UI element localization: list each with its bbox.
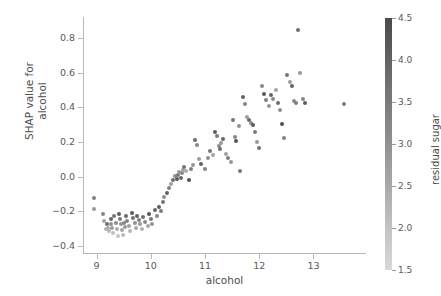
scatter-point <box>147 212 151 216</box>
scatter-point <box>116 234 120 238</box>
scatter-point <box>221 137 225 141</box>
colorbar-tick-mark <box>392 102 396 103</box>
colorbar-tick-mark <box>392 18 396 19</box>
scatter-point <box>211 153 215 157</box>
scatter-point <box>257 146 261 150</box>
scatter-point <box>218 147 222 151</box>
x-tick-label: 10 <box>136 260 166 271</box>
scatter-point <box>112 214 116 218</box>
scatter-point <box>298 71 302 75</box>
scatter-point <box>117 212 121 216</box>
scatter-point <box>111 231 115 235</box>
scatter-point <box>140 227 144 231</box>
scatter-point <box>159 209 163 213</box>
y-tick-label: 0.4 <box>60 101 75 112</box>
scatter-point <box>187 178 191 182</box>
scatter-point <box>219 141 223 145</box>
scatter-point <box>165 191 169 195</box>
y-tick-label: −0.2 <box>52 205 75 216</box>
colorbar-tick-mark <box>392 60 396 61</box>
scatter-point <box>280 122 284 126</box>
x-tick-mark <box>151 254 152 259</box>
scatter-point <box>342 102 346 106</box>
scatter-point <box>150 222 154 226</box>
x-tick-mark <box>205 254 206 259</box>
x-tick-label: 12 <box>244 260 274 271</box>
scatter-point <box>285 73 289 77</box>
colorbar-gradient <box>385 18 392 270</box>
scatter-point <box>215 134 219 138</box>
colorbar-tick-mark <box>392 186 396 187</box>
scatter-point <box>92 207 96 211</box>
y-tick-label: 0.2 <box>60 136 75 147</box>
y-tick-label: 0.6 <box>60 67 75 78</box>
scatter-point <box>303 101 307 105</box>
colorbar-tick-mark <box>392 144 396 145</box>
plot-area <box>83 17 365 253</box>
scatter-point <box>128 229 132 233</box>
scatter-point <box>155 214 159 218</box>
scatter-points-layer <box>83 17 365 253</box>
scatter-point <box>101 212 105 216</box>
scatter-point <box>255 140 259 144</box>
colorbar-label: residual sugar <box>430 85 441 215</box>
x-tick-label: 9 <box>82 260 112 271</box>
scatter-point <box>243 102 247 106</box>
scatter-point <box>251 123 255 127</box>
y-tick-label: 0.8 <box>60 32 75 43</box>
scatter-point <box>271 97 275 101</box>
scatter-point <box>133 221 137 225</box>
scatter-point <box>290 84 294 88</box>
x-tick-label: 11 <box>190 260 220 271</box>
scatter-point <box>278 108 282 112</box>
scatter-point <box>229 160 233 164</box>
scatter-point <box>189 167 193 171</box>
scatter-point <box>115 227 119 231</box>
scatter-point <box>130 211 134 215</box>
scatter-point <box>231 118 235 122</box>
y-axis-label-line-2: alcohol <box>36 41 49 161</box>
scatter-point <box>237 124 241 128</box>
scatter-point <box>191 163 195 167</box>
scatter-point <box>276 101 280 105</box>
colorbar <box>385 18 392 270</box>
scatter-point <box>121 233 125 237</box>
y-axis-label: SHAP value for alcohol <box>23 41 49 161</box>
scatter-point <box>262 92 266 96</box>
scatter-point <box>267 104 271 108</box>
scatter-point <box>260 84 264 88</box>
colorbar-tick-mark <box>392 270 396 271</box>
colorbar-tick-label: 3.5 <box>398 97 412 107</box>
scatter-point <box>206 156 210 160</box>
scatter-point <box>184 169 188 173</box>
colorbar-tick-label: 1.5 <box>398 265 412 275</box>
scatter-point <box>234 139 238 143</box>
scatter-point <box>124 214 128 218</box>
x-axis-label: alcohol <box>83 274 366 286</box>
colorbar-tick-label: 2.0 <box>398 223 412 233</box>
scatter-point <box>125 219 129 223</box>
colorbar-tick-label: 4.5 <box>398 13 412 23</box>
scatter-point <box>161 200 165 204</box>
scatter-point <box>127 224 131 228</box>
scatter-point <box>274 88 278 92</box>
y-tick-label: 0.0 <box>60 171 75 182</box>
scatter-point <box>146 224 150 228</box>
scatter-point <box>294 101 298 105</box>
x-tick-mark <box>259 254 260 259</box>
scatter-point <box>199 162 203 166</box>
scatter-point <box>195 143 199 147</box>
scatter-point <box>162 195 166 199</box>
scatter-point <box>296 28 300 32</box>
colorbar-tick-label: 4.0 <box>398 55 412 65</box>
colorbar-tick-mark <box>392 228 396 229</box>
colorbar-tick-label: 2.5 <box>398 181 412 191</box>
scatter-point <box>92 196 96 200</box>
scatter-point <box>241 95 245 99</box>
x-axis-spine <box>83 253 366 254</box>
scatter-point <box>282 136 286 140</box>
scatter-point <box>253 130 257 134</box>
scatter-point <box>238 169 242 173</box>
scatter-point <box>264 98 268 102</box>
